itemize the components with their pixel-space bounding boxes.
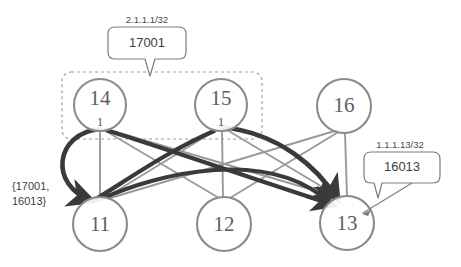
- node-label-16: 16: [334, 93, 355, 117]
- node-12[interactable]: 12: [197, 197, 251, 251]
- diagram-canvas: 14 1 15 1 16 11 12 13: [0, 0, 461, 267]
- callout-16013[interactable]: 1.1.1.13/32 16013: [362, 139, 440, 216]
- callout-16013-leader-line: [363, 183, 412, 213]
- callout-17001-prefix: 2.1.1.1/32: [126, 14, 168, 25]
- callout-17001[interactable]: 2.1.1.1/32 17001: [108, 14, 186, 76]
- node-14[interactable]: 14 1: [74, 79, 126, 131]
- callout-17001-value: 17001: [129, 35, 165, 50]
- node-15[interactable]: 15 1: [195, 79, 247, 131]
- set-annotation: {17001, 16013}: [12, 180, 49, 207]
- node-16[interactable]: 16: [317, 79, 371, 133]
- node-label-15: 15: [211, 86, 232, 110]
- mesh-edge-16-13: [345, 133, 347, 196]
- node-label-14: 14: [90, 86, 112, 110]
- set-annotation-line-2: 16013}: [12, 195, 47, 207]
- node-label-11: 11: [90, 212, 110, 236]
- node-label-12: 12: [214, 212, 235, 236]
- node-label-13: 13: [337, 211, 358, 235]
- node-sublabel-15: 1: [218, 114, 225, 129]
- network-diagram: 14 1 15 1 16 11 12 13: [0, 0, 461, 267]
- node-11[interactable]: 11: [73, 197, 127, 251]
- node-13[interactable]: 13: [320, 196, 374, 250]
- highlight-path-14-11: [62, 129, 100, 201]
- callout-17001-bubble[interactable]: [108, 27, 186, 76]
- callout-16013-value: 16013: [384, 159, 420, 174]
- node-sublabel-14: 1: [97, 114, 104, 129]
- set-annotation-line-1: {17001,: [12, 180, 49, 192]
- callout-16013-prefix: 1.1.1.13/32: [376, 139, 424, 150]
- highlight-path-15-11: [96, 131, 214, 199]
